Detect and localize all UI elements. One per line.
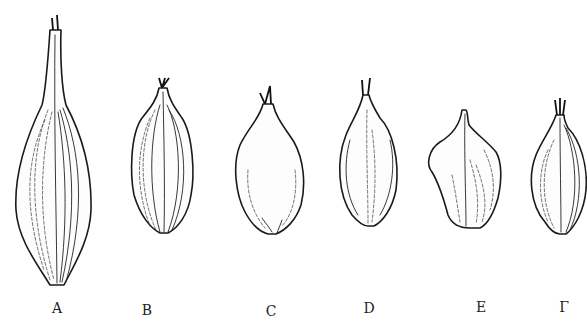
label-c: C — [266, 303, 277, 319]
specimen-a-drawing — [16, 15, 91, 285]
specimen-d-drawing — [340, 78, 397, 226]
label-b: B — [142, 302, 152, 318]
specimen-b-drawing — [132, 78, 193, 233]
label-f: Γ — [559, 299, 569, 315]
specimen-e-drawing — [429, 110, 501, 228]
label-a: A — [52, 300, 62, 316]
specimen-f-drawing — [531, 98, 586, 234]
botanical-figure: A B C D E Γ — [0, 0, 587, 325]
specimen-drawings — [0, 0, 587, 325]
label-e: E — [476, 299, 486, 315]
specimen-c-drawing — [236, 86, 304, 234]
label-d: D — [363, 300, 374, 316]
